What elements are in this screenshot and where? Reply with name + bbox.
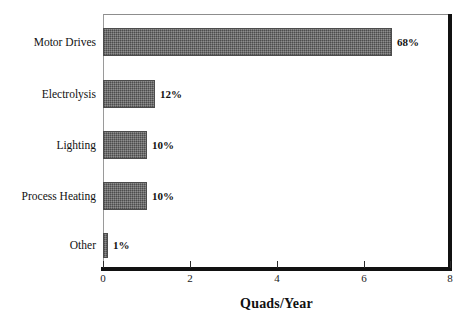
category-label-text: Lighting xyxy=(56,139,96,151)
value-label-electrolysis: 12% xyxy=(160,88,182,101)
x-axis-tick-0 xyxy=(103,261,104,268)
x-axis-tick-label-2: 2 xyxy=(175,272,205,285)
bar-other xyxy=(103,233,108,258)
x-axis-tick-label-0: 0 xyxy=(88,272,118,285)
category-label-text: Motor Drives xyxy=(34,36,96,48)
bar-chart: Motor Drives Electrolysis Lighting Proce… xyxy=(0,0,467,326)
value-label-motor-drives: 68% xyxy=(397,36,419,49)
x-axis-tick-label-4: 4 xyxy=(262,272,292,285)
value-label-process-heating: 10% xyxy=(152,190,174,203)
category-label-text: Electrolysis xyxy=(42,88,96,100)
bar-electrolysis xyxy=(103,80,155,108)
x-axis-tick-label-8: 8 xyxy=(435,272,465,285)
category-label-other: Other xyxy=(0,239,96,252)
x-axis-tick-label-6: 6 xyxy=(349,272,379,285)
right-axis-line xyxy=(448,14,452,271)
category-label-lighting: Lighting xyxy=(0,139,96,152)
bar-motor-drives xyxy=(103,28,392,56)
category-label-text: Process Heating xyxy=(22,190,96,202)
x-axis-tick-8 xyxy=(450,261,451,268)
bar-process-heating xyxy=(103,182,147,210)
value-label-other: 1% xyxy=(113,239,130,252)
x-axis-title: Quads/Year xyxy=(103,296,450,312)
value-label-lighting: 10% xyxy=(152,139,174,152)
x-axis-tick-4 xyxy=(277,261,278,268)
category-label-motor-drives: Motor Drives xyxy=(0,36,96,49)
x-axis-tick-2 xyxy=(190,261,191,268)
category-label-text: Other xyxy=(70,239,96,251)
bar-lighting xyxy=(103,131,147,159)
x-axis-tick-6 xyxy=(364,261,365,268)
category-label-process-heating: Process Heating xyxy=(0,190,96,203)
category-label-electrolysis: Electrolysis xyxy=(0,88,96,101)
